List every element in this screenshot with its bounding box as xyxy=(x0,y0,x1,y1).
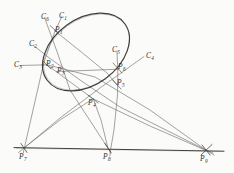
label-p7: P7 xyxy=(19,153,26,161)
baseline-p7-p9 xyxy=(14,148,224,152)
label-p8: P8 xyxy=(103,153,110,161)
label-c4: C4 xyxy=(146,52,154,60)
diagram-page: C6 C1 P1 C2 C3 P2 P3 C5 C4 P6 P5 P4 P7 P… xyxy=(0,0,234,173)
label-c6: C6 xyxy=(41,13,49,21)
label-p1: P1 xyxy=(55,26,62,34)
label-p4: P4 xyxy=(88,99,95,107)
label-p6: P6 xyxy=(118,63,125,71)
label-c3: C3 xyxy=(14,61,22,69)
label-c1: C1 xyxy=(59,12,67,20)
label-c5: C5 xyxy=(112,46,120,54)
chord-p4-p7 xyxy=(25,99,94,148)
label-p2: P2 xyxy=(46,60,53,68)
label-p3: P3 xyxy=(57,67,64,75)
label-p9: P9 xyxy=(200,155,207,163)
chord-p2-p4 xyxy=(47,65,206,151)
label-c2: C2 xyxy=(29,40,37,48)
label-p5: P5 xyxy=(117,79,124,87)
